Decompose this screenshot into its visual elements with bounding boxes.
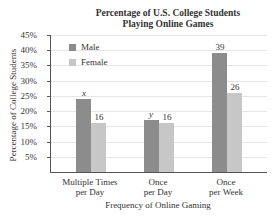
chart-title: Percentage of U.S. College Students Play… <box>60 8 276 30</box>
legend: Male Female <box>69 41 108 71</box>
x-category-line: per Week <box>191 187 261 197</box>
x-category-line: Once <box>123 177 193 187</box>
y-tick <box>47 65 51 66</box>
y-tick-label: 5% <box>25 152 37 162</box>
y-tick <box>47 35 51 36</box>
legend-item-female: Female <box>69 56 108 68</box>
bar-label-female-once-day: 16 <box>157 112 177 122</box>
y-tick-label: 15% <box>21 121 38 131</box>
bar-label-male-once-week: 39 <box>210 42 230 52</box>
y-tick <box>47 81 51 82</box>
chart-title-line-2: Playing Online Games <box>60 19 276 30</box>
y-tick-label: 35% <box>21 60 38 70</box>
y-tick-label: 40% <box>21 45 38 55</box>
bar-female-once-per-week <box>227 93 242 172</box>
legend-swatch-male <box>69 44 76 51</box>
x-category-once-per-week: Once per Week <box>191 177 261 197</box>
gridline-45 <box>51 35 267 36</box>
y-tick-label: 20% <box>21 106 38 116</box>
bar-female-multiple-times-per-day <box>91 123 106 172</box>
y-tick-label: 25% <box>21 91 38 101</box>
x-category-line: Multiple Times <box>55 177 125 187</box>
legend-label-male: Male <box>81 42 100 52</box>
x-category-line: per Day <box>55 187 125 197</box>
y-tick <box>47 50 51 51</box>
y-axis-label: Percentage of College Students <box>8 40 18 170</box>
y-tick <box>47 142 51 143</box>
chart-title-line-1: Percentage of U.S. College Students <box>60 8 276 19</box>
bar-male-once-per-week <box>212 53 227 172</box>
x-category-line: per Day <box>123 187 193 197</box>
bar-male-multiple-times-per-day <box>76 99 91 172</box>
legend-swatch-female <box>69 59 76 66</box>
bar-label-female-multiple: 16 <box>89 112 109 122</box>
y-tick <box>47 157 51 158</box>
y-tick-label: 10% <box>21 137 38 147</box>
y-tick <box>47 96 51 97</box>
x-category-once-per-day: Once per Day <box>123 177 193 197</box>
x-axis-label: Frequency of Online Gaming <box>50 200 266 210</box>
bar-female-once-per-day <box>159 123 174 172</box>
legend-label-female: Female <box>81 57 108 67</box>
bar-label-female-once-week: 26 <box>225 82 245 92</box>
plot-area: 45% 40% 35% 30% 25% 20% 15% 10% 5% Male … <box>50 35 267 173</box>
bar-label-male-multiple: x <box>74 88 94 98</box>
legend-item-male: Male <box>69 41 108 53</box>
y-tick-label: 30% <box>21 76 38 86</box>
bar-male-once-per-day <box>144 120 159 172</box>
x-category-line: Once <box>191 177 261 187</box>
y-tick <box>47 111 51 112</box>
y-tick <box>47 126 51 127</box>
y-tick-label: 45% <box>21 30 38 40</box>
x-category-multiple-times-per-day: Multiple Times per Day <box>55 177 125 197</box>
